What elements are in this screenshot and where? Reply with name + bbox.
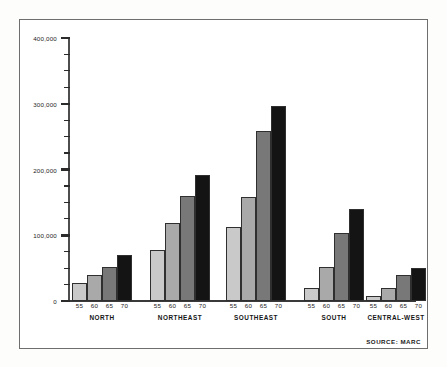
x-axis-tick-labels: 55606570 <box>150 302 210 309</box>
x-axis-tick-label: 70 <box>349 302 364 309</box>
bar[interactable] <box>349 209 364 301</box>
y-axis-major-tick <box>61 168 70 171</box>
bar[interactable] <box>102 267 117 301</box>
x-axis-tick-label: 55 <box>150 302 165 309</box>
bar-group-bars <box>150 38 210 301</box>
x-axis-tick-label: 55 <box>366 302 381 309</box>
x-axis-tick-labels: 55606570 <box>366 302 426 309</box>
x-axis-tick-label: 65 <box>102 302 117 309</box>
bar[interactable] <box>381 288 396 301</box>
x-axis-tick-label: 65 <box>396 302 411 309</box>
bar-group-label: NORTHEAST <box>150 314 210 321</box>
bar[interactable] <box>165 223 180 301</box>
bar[interactable] <box>256 131 271 301</box>
bar[interactable] <box>241 197 256 301</box>
bar-group-label: NORTH <box>72 314 132 321</box>
y-axis-minor-tick <box>64 185 70 186</box>
bar[interactable] <box>72 283 87 301</box>
x-axis-tick-labels: 55606570 <box>72 302 132 309</box>
bar[interactable] <box>226 227 241 301</box>
x-axis-tick-labels: 55606570 <box>304 302 364 309</box>
x-axis-tick-label: 70 <box>271 302 286 309</box>
chart-frame: 0100,000200,000300,000400,000 55606570NO… <box>19 19 428 349</box>
x-axis-tick-label: 55 <box>72 302 87 309</box>
x-axis-tick-label: 60 <box>241 302 256 309</box>
y-axis-minor-tick <box>64 120 70 121</box>
x-axis-tick-label: 70 <box>411 302 426 309</box>
x-axis-tick-label: 65 <box>256 302 271 309</box>
bar[interactable] <box>334 233 349 301</box>
y-axis-minor-tick <box>64 152 70 153</box>
y-axis-minor-tick <box>64 218 70 219</box>
y-axis-major-tick <box>61 300 70 303</box>
x-axis-tick-label: 60 <box>165 302 180 309</box>
bar[interactable] <box>304 288 319 301</box>
y-axis-major-tick <box>61 234 70 237</box>
chart-page: 0100,000200,000300,000400,000 55606570NO… <box>0 0 447 367</box>
bar[interactable] <box>180 196 195 301</box>
x-axis-tick-label: 55 <box>226 302 241 309</box>
bar-group-label: SOUTHEAST <box>226 314 286 321</box>
y-axis-tick-label: 0 <box>53 298 57 305</box>
bar-group-label: SOUTH <box>304 314 364 321</box>
bar-group-bars <box>366 38 426 301</box>
y-axis-tick-label: 100,000 <box>33 232 57 239</box>
y-axis-major-tick <box>61 103 70 106</box>
bar[interactable] <box>87 275 102 301</box>
y-axis-tick-label: 300,000 <box>33 100 57 107</box>
y-axis-minor-tick <box>64 202 70 203</box>
y-axis-minor-tick <box>64 251 70 252</box>
bar-group-bars <box>304 38 364 301</box>
bar[interactable] <box>271 106 286 301</box>
bar[interactable] <box>117 255 132 301</box>
x-axis-tick-label: 60 <box>381 302 396 309</box>
x-axis-tick-label: 55 <box>304 302 319 309</box>
y-axis-minor-tick <box>64 54 70 55</box>
y-axis-tick-label: 200,000 <box>33 166 57 173</box>
y-axis-minor-tick <box>64 136 70 137</box>
x-axis-tick-label: 70 <box>117 302 132 309</box>
y-axis-major-tick <box>61 37 70 40</box>
bar[interactable] <box>411 268 426 301</box>
bar[interactable] <box>366 296 381 301</box>
bar[interactable] <box>396 275 411 301</box>
x-axis-tick-labels: 55606570 <box>226 302 286 309</box>
bar-group-bars <box>72 38 132 301</box>
y-axis-minor-tick <box>64 70 70 71</box>
y-axis-minor-tick <box>64 87 70 88</box>
x-axis-tick-label: 65 <box>180 302 195 309</box>
plot-area: 0100,000200,000300,000400,000 55606570NO… <box>20 20 429 350</box>
y-axis-tick-label: 400,000 <box>33 35 57 42</box>
x-axis-tick-label: 65 <box>334 302 349 309</box>
bar[interactable] <box>195 175 210 301</box>
source-note: SOURCE: MARC <box>366 338 421 345</box>
x-axis-tick-label: 70 <box>195 302 210 309</box>
y-axis-minor-tick <box>64 268 70 269</box>
x-axis-tick-label: 60 <box>87 302 102 309</box>
y-axis-minor-tick <box>64 284 70 285</box>
bar-group-bars <box>226 38 286 301</box>
bar[interactable] <box>150 250 165 301</box>
bar-group-label: CENTRAL-WEST <box>366 314 426 321</box>
x-axis-tick-label: 60 <box>319 302 334 309</box>
bar[interactable] <box>319 267 334 301</box>
